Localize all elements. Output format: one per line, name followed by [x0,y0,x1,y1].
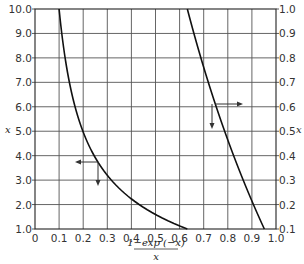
right-curve-arrows [210,102,244,130]
arrow-left-icon [75,160,81,165]
right-y-tick-label: 0.6 [279,101,296,113]
left-y-axis-ticks: 1.02.03.04.05.06.07.08.09.010.0 [9,3,35,235]
x-tick-label: 0.7 [195,232,212,244]
right-y-tick-label: 0.3 [279,174,296,186]
grid-lines [35,9,276,229]
x-tick-label: 0.8 [219,232,236,244]
left-y-tick-label: 7.0 [15,76,32,88]
left-y-tick-label: 4.0 [15,150,32,162]
left-y-tick-label: 2.0 [15,199,32,211]
right-y-tick-label: 0.7 [279,76,296,88]
right-y-tick-label: 0.9 [279,27,296,39]
right-y-tick-label: 0.5 [279,125,296,137]
x-tick-label: 0.3 [99,232,116,244]
left-y-tick-label: 3.0 [15,174,32,186]
x-axis-label-denominator: x [153,251,159,262]
x-tick-label: 0.1 [51,232,68,244]
left-y-tick-label: 10.0 [9,3,32,15]
right-y-tick-label: 0.4 [279,150,296,162]
arrow-right-icon [237,102,243,107]
left-axis-curve [59,9,187,229]
left-y-tick-label: 5.0 [15,125,32,137]
right-y-tick-label: 0.2 [279,199,296,211]
x-tick-label: 0 [32,232,39,244]
left-curve-arrows [75,160,101,187]
right-y-tick-label: 1.0 [279,3,296,15]
right-y-tick-label: 0.8 [279,52,296,64]
left-y-axis-label: x [5,124,11,135]
arrow-down-icon [96,180,101,186]
right-axis-curve [187,9,264,229]
left-y-tick-label: 9.0 [15,27,32,39]
arrow-down-icon [210,123,215,129]
right-y-axis-ticks: 0.10.20.30.40.50.60.70.80.91.0 [276,3,296,235]
right-y-tick-label: 0.1 [279,223,296,235]
chart: 00.10.20.30.40.50.60.70.80.91.0 1.02.03.… [0,0,304,264]
left-y-tick-label: 1.0 [15,223,32,235]
right-y-axis-label: x [296,124,302,135]
x-tick-label: 0.9 [244,232,261,244]
x-tick-label: 0.2 [75,232,92,244]
left-y-tick-label: 6.0 [15,101,32,113]
x-axis-label-numerator: 1−exp (−x) [127,237,185,248]
left-y-tick-label: 8.0 [15,52,32,64]
